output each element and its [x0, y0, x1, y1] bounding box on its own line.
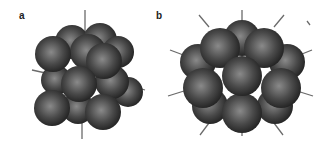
cluster-b — [168, 10, 313, 136]
cluster-a — [32, 10, 145, 139]
figure-canvas — [0, 0, 326, 149]
